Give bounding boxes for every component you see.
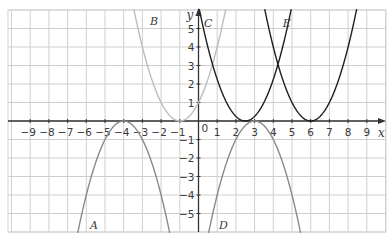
y-tick-label: 2 [188, 78, 195, 90]
x-tick-label: 6 [307, 126, 314, 138]
origin-label: 0 [202, 122, 209, 134]
curve-label-d: D [218, 219, 228, 232]
y-tick-label: −3 [179, 171, 194, 183]
curve-label-a: A [89, 219, 98, 232]
x-tick-label: −5 [95, 126, 110, 138]
y-tick-label: −2 [179, 152, 194, 164]
x-tick-label: −2 [151, 126, 166, 138]
curve-label-e: E [282, 17, 291, 30]
tick-labels: −9−8−7−6−5−4−3−2−1123456789−5−4−3−2−1123… [20, 8, 385, 220]
x-tick-label: −7 [58, 126, 73, 138]
x-tick-label: 7 [326, 126, 333, 138]
y-tick-label: 1 [188, 97, 195, 109]
parabola-chart: −9−8−7−6−5−4−3−2−1123456789−5−4−3−2−1123… [0, 0, 387, 234]
y-tick-label: 5 [188, 23, 195, 35]
y-axis-label: y [186, 8, 194, 22]
curve-label-c: C [204, 17, 213, 30]
y-tick-label: −4 [179, 189, 195, 201]
x-tick-label: −4 [114, 126, 130, 138]
x-axis-arrow-icon [378, 118, 386, 124]
x-tick-label: 5 [289, 126, 296, 138]
x-tick-label: 1 [214, 126, 221, 138]
x-axis-label: x [378, 126, 385, 140]
x-tick-label: −8 [39, 126, 54, 138]
x-tick-label: 9 [363, 126, 370, 138]
curve-label-b: B [149, 15, 158, 28]
y-tick-label: 3 [188, 60, 195, 72]
x-tick-label: 3 [251, 126, 258, 138]
y-tick-label: −1 [179, 134, 194, 146]
x-tick-label: −9 [20, 126, 35, 138]
x-tick-label: −6 [77, 126, 93, 138]
y-tick-label: 4 [188, 41, 195, 53]
x-tick-label: 8 [345, 126, 352, 138]
y-tick-label: −5 [179, 208, 194, 220]
